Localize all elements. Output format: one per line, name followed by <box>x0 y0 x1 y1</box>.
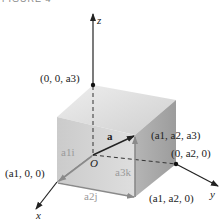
y-axis-label: y <box>210 189 215 200</box>
x-point-label: (a1, 0, 0) <box>5 168 45 179</box>
vector-a-label: a <box>107 131 113 142</box>
x-axis <box>36 182 57 209</box>
y-point-label: (0, a2, 0) <box>171 148 211 159</box>
a3k-label: a3k <box>115 167 131 178</box>
z-point-label: (0, 0, a3) <box>40 73 80 84</box>
a1i-label: a1i <box>61 147 74 158</box>
tip-point-label: (a1, a2, a3) <box>151 130 200 141</box>
y-axis <box>176 164 218 186</box>
origin-label: O <box>90 158 98 169</box>
z-point-dot <box>91 83 95 87</box>
y-point-dot <box>174 162 178 166</box>
coordinate-box-diagram <box>0 0 224 224</box>
x-axis-label: x <box>36 210 41 221</box>
z-axis-label: z <box>97 15 101 26</box>
xy-point-label: (a1, a2, 0) <box>149 193 194 204</box>
a2j-label: a2j <box>84 191 97 202</box>
